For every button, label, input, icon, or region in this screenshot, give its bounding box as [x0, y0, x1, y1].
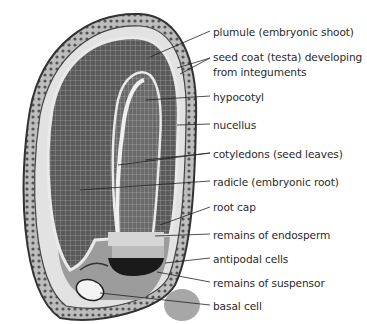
label-hypocotyl: hypocotyl	[213, 91, 264, 104]
label-plumule: plumule (embryonic shoot)	[213, 26, 354, 39]
label-cotyledons: cotyledons (seed leaves)	[213, 148, 343, 161]
label-radicle: radicle (embryonic root)	[213, 176, 339, 189]
label-seed-coat: seed coat (testa) developing	[213, 51, 362, 64]
label-antipodal-cells: antipodal cells	[213, 253, 288, 266]
label-root-cap: root cap	[213, 201, 256, 214]
label-endosperm: remains of endosperm	[213, 229, 330, 242]
label-nucellus: nucellus	[213, 119, 256, 132]
label-suspensor: remains of suspensor	[213, 277, 325, 290]
label-basal-cell: basal cell	[213, 300, 262, 313]
label-seed-coat-cont: from integuments	[213, 66, 306, 79]
micrograph	[0, 0, 367, 324]
seed-diagram: plumule (embryonic shoot) seed coat (tes…	[0, 0, 367, 324]
